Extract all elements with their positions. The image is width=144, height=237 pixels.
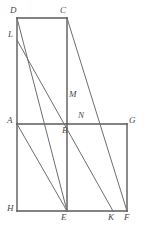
vertex-label-F: F <box>124 213 130 222</box>
figure-canvas <box>0 0 144 237</box>
vertex-label-G: G <box>129 116 136 125</box>
vertex-label-K: K <box>108 213 114 222</box>
vertex-label-L: L <box>8 30 13 39</box>
vertex-label-D: D <box>10 6 17 15</box>
vertex-label-E: E <box>61 213 67 222</box>
vertex-label-C: C <box>60 6 66 15</box>
vertex-label-M: M <box>69 90 77 99</box>
vertex-label-H: H <box>7 204 14 213</box>
vertex-label-N: N <box>78 111 84 120</box>
diag-DE <box>17 18 67 211</box>
diag-AE <box>17 124 67 211</box>
vertex-label-A: A <box>7 116 13 125</box>
vertex-label-B: B <box>62 126 68 135</box>
geometry-figure: DCLMABNGHEKF <box>0 0 144 237</box>
segment-layer <box>17 18 127 211</box>
